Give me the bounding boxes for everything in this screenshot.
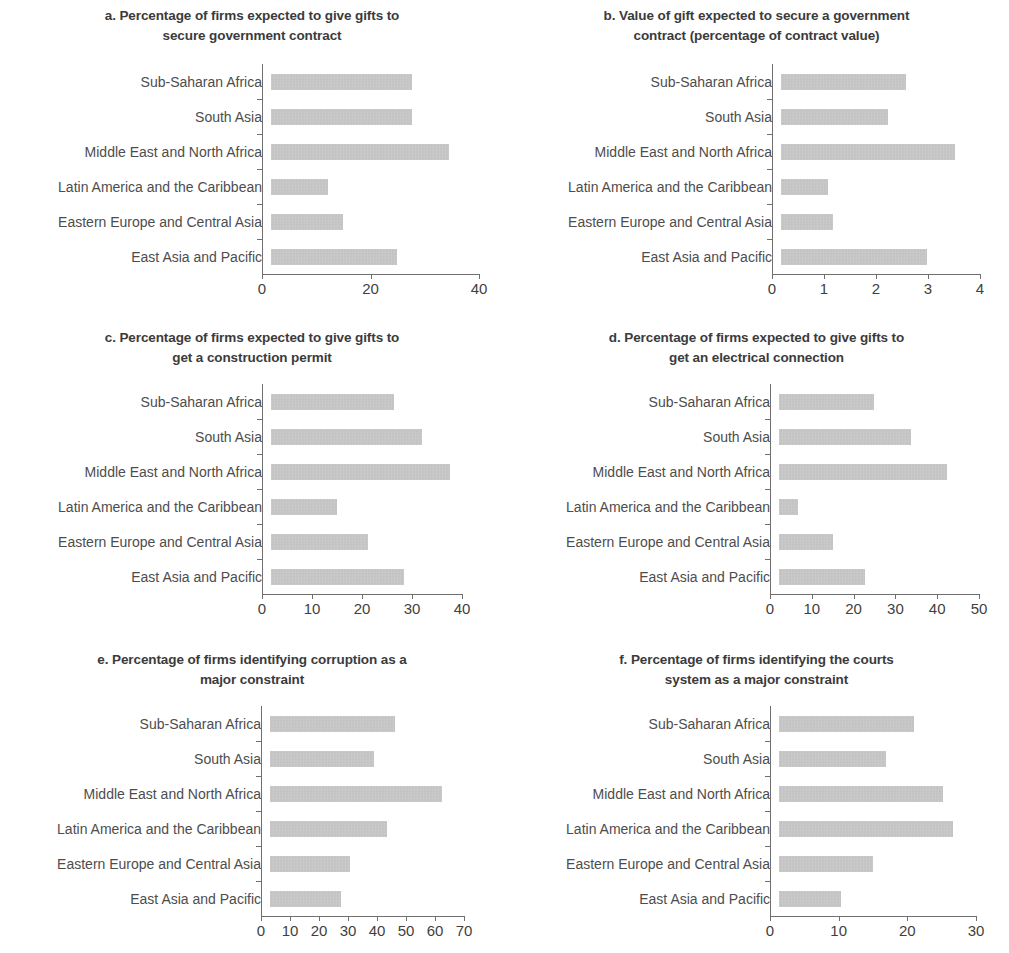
- x-tick-label: 30: [404, 601, 421, 616]
- bar: [781, 109, 888, 125]
- y-axis-tick: [765, 846, 770, 847]
- bar: [779, 786, 943, 802]
- bar: [779, 464, 947, 480]
- bar-cell: [271, 134, 488, 169]
- x-tick-label: 20: [362, 281, 379, 296]
- chart-row: South Asia: [0, 741, 504, 776]
- panel-title-e: e. Percentage of firms identifying corru…: [0, 644, 504, 689]
- bar: [271, 109, 412, 125]
- panel-title-b: b. Value of gift expected to secure a go…: [504, 0, 1009, 45]
- bar-cell: [270, 811, 473, 846]
- x-axis-tick: [770, 916, 771, 921]
- y-axis-tick: [767, 99, 772, 100]
- x-axis-tick: [980, 274, 981, 279]
- x-tick-label: 0: [258, 601, 266, 616]
- x-axis-line: [770, 594, 979, 595]
- bar: [779, 569, 865, 585]
- multi-panel-bar-chart-figure: a. Percentage of firms expected to give …: [0, 0, 1009, 953]
- bar-cell: [781, 239, 989, 274]
- panel-title-line: c. Percentage of firms expected to give …: [34, 328, 470, 348]
- bar-cell: [271, 384, 471, 419]
- bar-cell: [270, 706, 473, 741]
- panel-title-line: f. Percentage of firms identifying the c…: [538, 650, 975, 670]
- x-tick-label: 3: [924, 281, 932, 296]
- bar: [270, 716, 395, 732]
- x-axis-tick: [937, 594, 938, 599]
- plot-area-c: Sub-Saharan AfricaSouth AsiaMiddle East …: [0, 384, 504, 594]
- x-axis-tick: [312, 594, 313, 599]
- chart-row: Sub-Saharan Africa: [0, 706, 504, 741]
- x-axis-tick: [895, 594, 896, 599]
- bar: [270, 891, 341, 907]
- x-tick-labels: 0102030: [770, 923, 976, 943]
- y-axis-tick: [767, 134, 772, 135]
- bar: [779, 499, 798, 515]
- category-label: East Asia and Pacific: [0, 570, 271, 584]
- bar-cell: [271, 64, 488, 99]
- y-axis-tick: [257, 524, 262, 525]
- x-axis-tick: [362, 594, 363, 599]
- chart-row: Eastern Europe and Central Asia: [504, 524, 1009, 559]
- x-axis-line: [770, 916, 976, 917]
- category-label: Sub-Saharan Africa: [504, 395, 779, 409]
- y-axis-tick: [767, 169, 772, 170]
- category-label: South Asia: [0, 752, 270, 766]
- category-label: South Asia: [504, 430, 779, 444]
- category-label: Latin America and the Caribbean: [504, 500, 779, 514]
- bar-rows: Sub-Saharan AfricaSouth AsiaMiddle East …: [0, 384, 504, 594]
- category-label: Middle East and North Africa: [504, 465, 779, 479]
- y-axis-line: [770, 384, 771, 594]
- bar-cell: [781, 64, 989, 99]
- bar-cell: [781, 169, 989, 204]
- chart-row: East Asia and Pacific: [504, 559, 1009, 594]
- bar: [271, 74, 412, 90]
- y-axis-tick: [257, 239, 262, 240]
- bar: [270, 856, 350, 872]
- chart-row: East Asia and Pacific: [504, 239, 1009, 274]
- x-tick-label: 10: [282, 923, 299, 938]
- bar-cell: [779, 706, 985, 741]
- x-tick-label: 4: [976, 281, 984, 296]
- x-axis-tick: [976, 916, 977, 921]
- x-axis-tick: [876, 274, 877, 279]
- bar: [271, 429, 422, 445]
- bar-cell: [779, 524, 988, 559]
- chart-row: South Asia: [504, 741, 1009, 776]
- chart-row: Latin America and the Caribbean: [0, 169, 504, 204]
- chart-row: Middle East and North Africa: [504, 134, 1009, 169]
- bar: [781, 179, 828, 195]
- category-label: Middle East and North Africa: [0, 145, 271, 159]
- bar-cell: [270, 881, 473, 916]
- category-label: Eastern Europe and Central Asia: [0, 215, 271, 229]
- plot-area-b: Sub-Saharan AfricaSouth AsiaMiddle East …: [504, 64, 1009, 274]
- x-tick-label: 0: [257, 923, 265, 938]
- panel-title-c: c. Percentage of firms expected to give …: [0, 322, 504, 367]
- bar-rows: Sub-Saharan AfricaSouth AsiaMiddle East …: [504, 384, 1009, 594]
- panel-title-line: d. Percentage of firms expected to give …: [538, 328, 975, 348]
- category-label: Middle East and North Africa: [504, 787, 779, 801]
- y-axis-tick: [256, 881, 261, 882]
- x-axis-line: [262, 274, 479, 275]
- chart-row: Sub-Saharan Africa: [504, 64, 1009, 99]
- bar-cell: [781, 134, 989, 169]
- x-tick-label: 0: [766, 923, 774, 938]
- category-label: Eastern Europe and Central Asia: [504, 215, 781, 229]
- x-tick-label: 30: [968, 923, 985, 938]
- category-label: South Asia: [0, 110, 271, 124]
- x-axis-tick: [812, 594, 813, 599]
- x-axis-tick: [377, 916, 378, 921]
- y-axis-tick: [257, 169, 262, 170]
- panel-c: c. Percentage of firms expected to give …: [0, 322, 504, 644]
- y-axis-line: [770, 706, 771, 916]
- x-axis-tick: [479, 274, 480, 279]
- x-tick-labels: 02040: [262, 281, 479, 301]
- category-label: Middle East and North Africa: [504, 145, 781, 159]
- bar-cell: [779, 741, 985, 776]
- panel-f: f. Percentage of firms identifying the c…: [504, 644, 1009, 953]
- category-label: East Asia and Pacific: [0, 892, 270, 906]
- chart-row: Sub-Saharan Africa: [0, 384, 504, 419]
- panel-title-line: secure government contract: [34, 26, 470, 46]
- bar-cell: [271, 169, 488, 204]
- category-label: Sub-Saharan Africa: [504, 75, 781, 89]
- panel-title-line: get a construction permit: [34, 348, 470, 368]
